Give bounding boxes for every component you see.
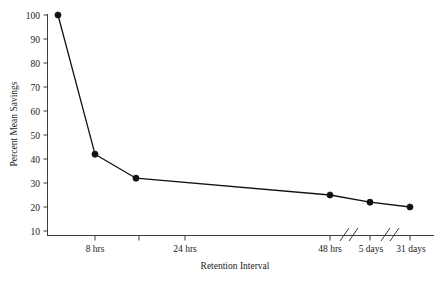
x-tick-label-8hrs: 8 hrs <box>86 244 105 254</box>
x-tick-label-31days: 31 days <box>396 244 426 254</box>
x-tick-label-48hrs: 48 hrs <box>318 244 342 254</box>
x-axis: 8 hrs 24 hrs 48 hrs 5 days 31 days Reten… <box>48 228 435 271</box>
y-tick-label-50: 50 <box>31 131 41 141</box>
y-axis-title: Percent Mean Savings <box>9 81 19 166</box>
series-line-percent-mean-savings <box>58 15 410 207</box>
y-tick-label-70: 70 <box>31 83 41 93</box>
y-tick-label-40: 40 <box>31 155 41 165</box>
axis-break-mark-2 <box>381 228 399 241</box>
figure-container: 100 90 80 70 60 50 40 30 20 10 Percent M… <box>0 0 437 283</box>
x-tick-label-5days: 5 days <box>359 244 384 254</box>
axis-break-mark-1 <box>340 228 358 241</box>
y-tick-label-80: 80 <box>31 59 41 69</box>
x-tick-marks <box>95 236 410 241</box>
data-point-6-days <box>367 199 373 205</box>
y-tick-label-10: 10 <box>31 227 41 237</box>
y-tick-label-100: 100 <box>26 11 41 21</box>
series-marker-group <box>55 12 413 210</box>
y-tick-label-30: 30 <box>31 179 41 189</box>
data-point-1-day <box>133 175 139 181</box>
data-series-group <box>55 12 413 210</box>
y-tick-marks <box>44 15 48 231</box>
x-axis-title: Retention Interval <box>201 261 270 271</box>
x-tick-label-24hrs: 24 hrs <box>173 244 197 254</box>
data-point-2-days <box>327 192 333 198</box>
y-axis: 100 90 80 70 60 50 40 30 20 10 Percent M… <box>9 11 48 237</box>
y-tick-label-90: 90 <box>31 35 41 45</box>
figure-caption <box>18 276 278 283</box>
forgetting-curve-chart: 100 90 80 70 60 50 40 30 20 10 Percent M… <box>0 0 437 283</box>
data-point-31-days <box>407 204 413 210</box>
data-point-8-hrs <box>92 151 98 157</box>
y-tick-label-20: 20 <box>31 203 41 213</box>
data-point-20-min <box>55 12 61 18</box>
y-tick-label-60: 60 <box>31 107 41 117</box>
